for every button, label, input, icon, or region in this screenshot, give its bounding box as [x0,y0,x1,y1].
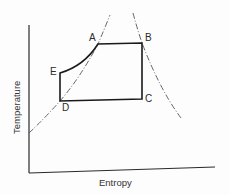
point-label-b: B [145,33,152,43]
x-axis [29,167,215,173]
point-label-a: A [89,33,96,43]
point-label-d: D [62,103,69,113]
x-axis-label: Entropy [99,177,132,188]
cycle-path [60,43,142,101]
saturated-liquid-curve [29,15,110,133]
saturated-vapour-curve [133,13,181,118]
ts-diagram [0,0,230,195]
point-label-e: E [50,67,57,77]
y-axis-label: Temperature [11,81,22,134]
point-label-c: C [145,94,152,104]
